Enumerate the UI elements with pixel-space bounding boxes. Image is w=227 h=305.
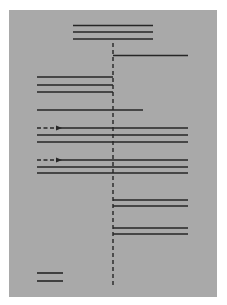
dashed-arrow-icon: [37, 158, 62, 163]
line-diagram: [0, 0, 227, 305]
dashed-arrows-layer: [37, 126, 62, 163]
dashed-arrow-icon: [37, 126, 62, 131]
